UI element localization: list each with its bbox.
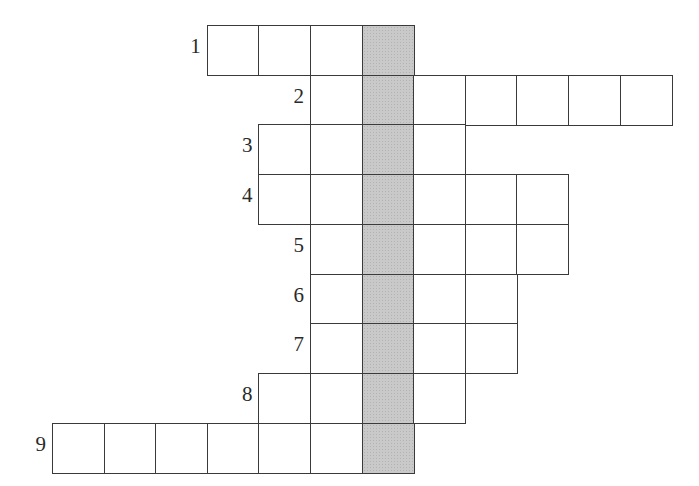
keyword-cell-r1-c4[interactable] [362, 25, 415, 76]
keyword-cell-r7-c2[interactable] [362, 323, 415, 374]
answer-cell-r9-c5[interactable] [258, 423, 311, 474]
answer-cell-r5-c5[interactable] [516, 224, 569, 275]
clue-number-2: 2 [280, 86, 304, 107]
answer-cell-r9-c3[interactable] [155, 423, 208, 474]
clue-number-9: 9 [22, 434, 46, 455]
answer-cell-r2-c1[interactable] [310, 75, 363, 126]
answer-cell-r1-c2[interactable] [258, 25, 311, 76]
answer-cell-r1-c1[interactable] [207, 25, 260, 76]
answer-cell-r4-c2[interactable] [310, 174, 363, 225]
answer-cell-r6-c1[interactable] [310, 274, 363, 325]
answer-cell-r4-c1[interactable] [258, 174, 311, 225]
keyword-cell-r2-c2[interactable] [362, 75, 415, 126]
answer-cell-r6-c3[interactable] [413, 274, 466, 325]
answer-cell-r5-c4[interactable] [465, 224, 518, 275]
answer-cell-r6-c4[interactable] [465, 274, 518, 325]
answer-cell-r4-c4[interactable] [413, 174, 466, 225]
keyword-cell-r5-c2[interactable] [362, 224, 415, 275]
answer-cell-r7-c1[interactable] [310, 323, 363, 374]
keyword-cell-r8-c3[interactable] [362, 373, 415, 424]
crossword-grid: 123456789 [0, 0, 699, 486]
answer-cell-r4-c5[interactable] [465, 174, 518, 225]
keyword-cell-r3-c3[interactable] [362, 124, 415, 175]
clue-number-7: 7 [280, 334, 304, 355]
answer-cell-r8-c1[interactable] [258, 373, 311, 424]
answer-cell-r3-c4[interactable] [413, 124, 466, 175]
answer-cell-r9-c1[interactable] [52, 423, 105, 474]
answer-cell-r7-c3[interactable] [413, 323, 466, 374]
answer-cell-r2-c6[interactable] [568, 75, 621, 126]
clue-number-5: 5 [280, 235, 304, 256]
answer-cell-r1-c3[interactable] [310, 25, 363, 76]
answer-cell-r7-c4[interactable] [465, 323, 518, 374]
answer-cell-r5-c1[interactable] [310, 224, 363, 275]
answer-cell-r2-c3[interactable] [413, 75, 466, 126]
answer-cell-r8-c2[interactable] [310, 373, 363, 424]
answer-cell-r9-c4[interactable] [207, 423, 260, 474]
answer-cell-r8-c4[interactable] [413, 373, 466, 424]
answer-cell-r3-c1[interactable] [258, 124, 311, 175]
answer-cell-r5-c3[interactable] [413, 224, 466, 275]
answer-cell-r9-c6[interactable] [310, 423, 363, 474]
keyword-cell-r9-c7[interactable] [362, 423, 415, 474]
clue-number-8: 8 [228, 384, 252, 405]
keyword-cell-r4-c3[interactable] [362, 174, 415, 225]
answer-cell-r2-c7[interactable] [620, 75, 673, 126]
keyword-cell-r6-c2[interactable] [362, 274, 415, 325]
answer-cell-r9-c2[interactable] [104, 423, 157, 474]
clue-number-3: 3 [228, 135, 252, 156]
clue-number-6: 6 [280, 285, 304, 306]
clue-number-4: 4 [228, 185, 252, 206]
answer-cell-r2-c5[interactable] [516, 75, 569, 126]
answer-cell-r2-c4[interactable] [465, 75, 518, 126]
answer-cell-r4-c6[interactable] [516, 174, 569, 225]
answer-cell-r3-c2[interactable] [310, 124, 363, 175]
clue-number-1: 1 [177, 36, 201, 57]
